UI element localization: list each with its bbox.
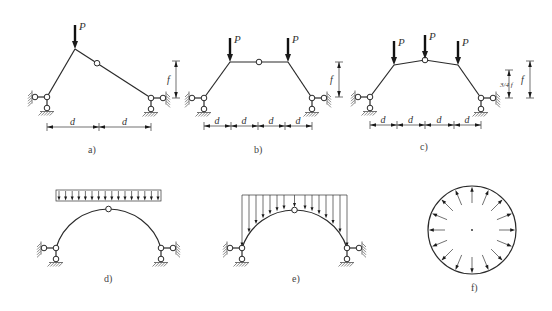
point-load-arrow: P [455,36,469,65]
load-arrow-head [293,203,296,207]
member [458,65,481,98]
load-arrow-head [311,207,314,211]
link-hinge [321,95,327,101]
load-arrow-head [283,206,286,210]
wall-hatch [351,91,355,107]
rise-dimension: f [330,62,343,97]
load-arrow-head [332,220,335,224]
wall-hatch [223,242,227,258]
load-arrow-head [110,197,113,201]
dimension-arrow [419,123,425,127]
ground-hatch [153,263,169,267]
radial-pressure-arrow [455,190,461,205]
member [75,49,151,98]
crown-hinge [94,60,100,66]
dimension-arrow [231,124,237,128]
member [394,60,425,65]
link-hinge [356,245,362,251]
load-arrow-head [285,54,291,62]
point-load-arrow: P [227,33,241,62]
link-hinge [309,106,315,112]
dimension-arrow [279,124,285,128]
support-hinge [158,245,164,251]
arrow-head [455,265,458,270]
arrow-shaft [444,249,453,258]
subfigure-c: PPPdddd3/4 ffc) [351,30,534,153]
dimension-arrow [145,125,151,129]
support-hinge [367,94,373,100]
uniform-load [56,190,161,201]
diagram-canvas: Pddfa)PPddddfb)PPPdddd3/4 ffc)d)e)f) [0,0,552,311]
load-arrow-head [104,197,107,201]
load-arrow-head [269,210,272,214]
radial-pressure-arrow [455,255,461,270]
dimension-arrow [475,123,481,127]
arrow-head [507,213,512,216]
radial-pressure-arrow [432,240,447,246]
ground-hatch [362,112,378,116]
span-label-d: d [437,114,443,125]
load-arrow-head [137,197,140,201]
span-dimension: dddd [204,115,312,131]
load-arrow-head [262,214,265,218]
span-dimension: dd [47,116,151,132]
load-label-P: P [397,36,405,48]
arch-curve [242,210,347,248]
subfigure-e: e) [223,195,366,285]
radial-pressure-arrow [470,257,473,273]
load-arrow-head [91,197,94,201]
link-hinge [44,105,50,111]
member [288,62,312,98]
dimension-arrow [370,123,376,127]
rise-dimension: 3/4 f [499,70,514,98]
span-label-d: d [296,115,302,126]
member [47,49,75,97]
load-label-P: P [78,20,86,32]
dimension-arrow [337,62,341,68]
rise-label-f: 3/4 f [499,81,514,89]
dimension-arrow [204,124,210,128]
load-arrow-head [455,57,461,65]
arrow-shaft [482,193,487,205]
dimension-arrow [448,123,454,127]
subfigure-a: Pddfa) [28,20,180,156]
span-label-d: d [242,115,248,126]
center-dot [471,229,473,231]
ground-hatch [196,113,212,117]
dimension-arrow [252,124,258,128]
caption-b: b) [254,144,262,156]
load-arrow-head [304,206,307,210]
link-hinge [53,256,59,262]
ground-hatch [48,263,64,267]
left-support [351,91,377,116]
load-arrow-head [227,54,233,62]
radial-pressure-arrow [497,213,512,219]
arrow-head [485,265,488,270]
radial-pressure-arrow [432,213,447,219]
subfigure-b: PPddddfb) [185,33,343,156]
arrow-shaft [435,215,447,220]
load-label-P: P [233,33,241,45]
support-hinge [53,245,59,251]
support-hinge [201,95,207,101]
arrow-head [455,190,458,195]
member [204,62,230,98]
radial-pressure-arrow [497,240,512,246]
load-arrow-head [97,197,100,201]
dimension-arrow [93,125,99,129]
load-arrow-head [157,197,160,201]
wall-hatch [28,91,32,107]
arrow-shaft [457,255,462,267]
radial-pressure-arrow [482,190,488,205]
link-hinge [41,245,47,251]
caption-a: a) [88,144,96,156]
arrow-shaft [491,202,500,211]
left-support [28,91,54,116]
link-hinge [478,106,484,112]
dimension-arrow [285,124,291,128]
dimension-arrow [507,92,511,98]
load-arrow-head [143,197,146,201]
radial-pressure-arrow [482,255,488,270]
dimension-arrow [225,124,231,128]
left-support [185,92,211,117]
